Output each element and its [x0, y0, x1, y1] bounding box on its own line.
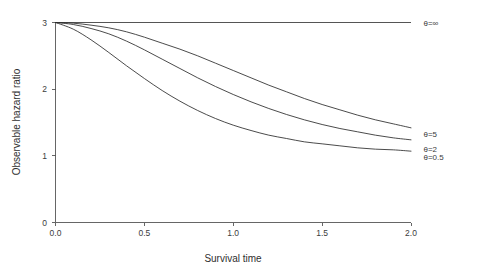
series-label-theta-infinity: θ=∞ — [423, 19, 438, 28]
x-axis-tick-labels: 0.0 0.5 1.0 1.5 2.0 — [50, 228, 418, 238]
x-axis-ticks — [56, 223, 412, 227]
chart-plot-area: 0 1 2 3 0.0 0.5 1.0 1.5 2.0 Survival tim… — [0, 0, 478, 279]
x-tick-label-3: 1.5 — [316, 228, 328, 238]
y-tick-label-1: 1 — [42, 151, 47, 161]
curve-theta-2 — [56, 23, 412, 140]
series-label-theta-half: θ=0.5 — [423, 153, 444, 162]
series-label-theta-5: θ=5 — [423, 130, 437, 139]
x-axis-title: Survival time — [204, 253, 262, 264]
x-tick-label-4: 2.0 — [405, 228, 417, 238]
curve-theta-5 — [56, 23, 412, 128]
series-label-group: θ=∞ θ=5 θ=2 θ=0.5 — [423, 19, 444, 162]
y-tick-label-2: 2 — [42, 84, 47, 94]
chart-figure: 0 1 2 3 0.0 0.5 1.0 1.5 2.0 Survival tim… — [0, 0, 478, 279]
y-axis-ticks — [52, 23, 56, 223]
y-axis-title: Observable hazard ratio — [11, 68, 22, 175]
y-tick-label-0: 0 — [42, 218, 47, 228]
x-tick-label-2: 1.0 — [227, 228, 239, 238]
x-tick-label-1: 0.5 — [138, 228, 150, 238]
y-axis-tick-labels: 0 1 2 3 — [42, 18, 47, 228]
x-tick-label-0: 0.0 — [50, 228, 62, 238]
curve-group — [56, 23, 412, 152]
y-tick-label-3: 3 — [42, 18, 47, 28]
